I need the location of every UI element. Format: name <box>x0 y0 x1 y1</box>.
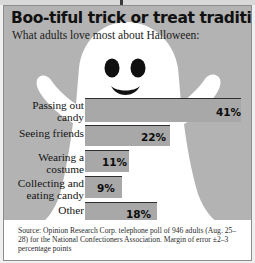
bar-label: Seeing friends <box>3 128 84 140</box>
bar-label: Passing out candy <box>3 100 84 123</box>
infographic-sheet: Boo-tiful trick or treat traditions What… <box>0 0 255 263</box>
bar-label-line1: Wearing a <box>38 151 84 163</box>
bar-value: 41% <box>216 106 241 118</box>
bar-label-line1: Other <box>58 204 84 216</box>
bar-value: 22% <box>141 131 166 143</box>
ghost-eye-right <box>131 59 146 78</box>
page-title: Boo-tiful trick or treat traditions <box>11 9 252 27</box>
ghost-mouth <box>111 86 140 95</box>
bar-value: 11% <box>102 156 127 168</box>
page-subtitle: What adults love most about Halloween: <box>12 29 199 41</box>
bar-value: 9% <box>97 182 115 194</box>
bar-label-line2: candy <box>57 111 84 123</box>
bar-label: Collecting and eating candy <box>3 178 84 201</box>
ghost-eye-left <box>105 59 120 78</box>
bar-label: Wearing a costume <box>3 152 84 175</box>
bar-label-line1: Seeing friends <box>19 127 84 139</box>
bar-chart: Passing out candy 41% Seeing friends 22%… <box>4 98 251 216</box>
bar-value: 18% <box>126 208 151 220</box>
bar-label-line2: costume <box>46 163 84 175</box>
bar-label: Other <box>3 205 84 217</box>
halloween-infographic: Boo-tiful trick or treat traditions What… <box>3 5 252 261</box>
bar-label-line2: eating candy <box>27 189 84 201</box>
source-note: Source: Opinion Research Corp. telephone… <box>18 226 238 254</box>
source-panel: Source: Opinion Research Corp. telephone… <box>4 220 251 260</box>
bar-label-line1: Collecting and <box>18 177 84 189</box>
bar-label-line1: Passing out <box>32 99 84 111</box>
